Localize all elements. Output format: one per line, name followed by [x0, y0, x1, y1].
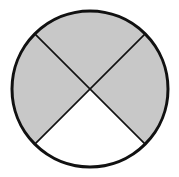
fraction-circle-diagram — [0, 0, 179, 177]
